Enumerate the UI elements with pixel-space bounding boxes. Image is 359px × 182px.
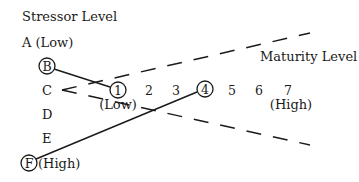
stressor-level-c: C bbox=[42, 83, 52, 98]
maturity-7-high-label: (High) bbox=[270, 97, 312, 112]
maturity-level-7: 7 bbox=[284, 83, 292, 98]
stressor-f-high-label: (High) bbox=[38, 156, 80, 171]
x-axis-title: Maturity Level bbox=[260, 49, 357, 64]
maturity-level-6: 6 bbox=[255, 83, 263, 98]
y-axis-title: Stressor Level bbox=[22, 9, 117, 24]
stressor-maturity-diagram: Stressor Level Maturity Level A (Low) B … bbox=[0, 0, 359, 182]
stressor-level-d: D bbox=[42, 107, 52, 122]
stressor-level-a: A (Low) bbox=[21, 35, 73, 50]
maturity-level-1: 1 bbox=[114, 83, 122, 98]
maturity-level-2: 2 bbox=[145, 83, 153, 98]
maturity-1-low-label: (Low) bbox=[99, 97, 137, 112]
stressor-level-e: E bbox=[42, 131, 52, 146]
maturity-level-4: 4 bbox=[201, 82, 209, 97]
connection-b-to-1 bbox=[54, 69, 110, 87]
maturity-level-3: 3 bbox=[172, 83, 180, 98]
stressor-level-b: B bbox=[42, 59, 51, 74]
maturity-level-5: 5 bbox=[228, 83, 236, 98]
stressor-level-f: F bbox=[25, 156, 34, 171]
